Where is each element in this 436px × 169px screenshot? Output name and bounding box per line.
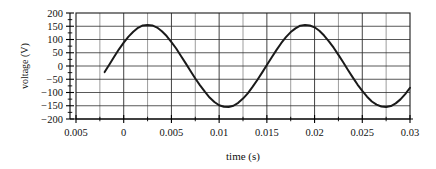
y-tick-label: −200	[41, 114, 63, 125]
x-tick-label: 0.03	[401, 127, 419, 138]
y-tick-label: 200	[47, 8, 63, 19]
voltage-time-line-chart: −200−150−100−50050100150200 0.00500.0050…	[0, 0, 436, 169]
y-axis-title: voltage (V)	[19, 43, 31, 89]
x-tick-label: 0.01	[210, 127, 228, 138]
y-axis-tick-labels: −200−150−100−50050100150200	[41, 8, 63, 125]
chart-figure: −200−150−100−50050100150200 0.00500.0050…	[0, 0, 436, 169]
y-tick-label: −50	[47, 74, 63, 85]
x-axis-tick-labels: 0.00500.0050.010.0150.020.0250.03	[64, 127, 419, 138]
y-tick-label: 50	[53, 47, 64, 58]
y-tick-label: −100	[41, 87, 63, 98]
y-tick-label: 100	[47, 34, 63, 45]
x-tick-label: 0.02	[305, 127, 323, 138]
x-tick-label: 0.005	[64, 127, 88, 138]
x-tick-label: 0.015	[255, 127, 279, 138]
x-tick-label: 0.005	[160, 127, 184, 138]
x-axis-title: time (s)	[226, 150, 260, 163]
y-tick-label: −150	[41, 100, 63, 111]
y-tick-label: 150	[47, 21, 63, 32]
y-tick-label: 0	[58, 61, 63, 72]
x-tick-label: 0.025	[350, 127, 374, 138]
x-tick-label: 0	[121, 127, 126, 138]
